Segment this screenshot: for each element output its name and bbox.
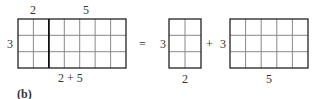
large-bottom-label: 5 — [266, 73, 272, 85]
large-grid — [230, 19, 308, 68]
small-bottom-label: 2 — [182, 73, 188, 85]
large-grid-outline — [230, 19, 308, 68]
bottom-label-sum: 2 + 5 — [58, 72, 83, 84]
small-grid — [169, 19, 201, 68]
figure-label: (b) — [17, 88, 32, 99]
top-label-5: 5 — [83, 4, 89, 16]
combined-grid-outline — [18, 19, 126, 68]
equals-sign: = — [139, 38, 146, 50]
side-label-3: 3 — [7, 38, 13, 50]
plus-sign: + — [206, 38, 213, 50]
small-side-label: 3 — [160, 38, 166, 50]
large-side-label: 3 — [220, 38, 226, 50]
top-label-2: 2 — [30, 4, 36, 16]
combined-grid — [18, 19, 126, 68]
